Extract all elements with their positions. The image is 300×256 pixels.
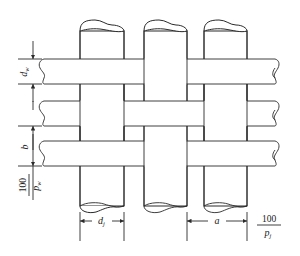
svg-text:pw: pw [30,181,42,192]
bottom-dimensions [80,212,247,241]
svg-text:pj: pj [264,227,272,239]
label-weft-spacing: b [19,145,30,150]
label-weft-pitch: 100 pw [18,174,42,196]
label-warp-diameter: dj [98,215,105,227]
label-weft-diameter: dw [18,67,30,77]
svg-text:b: b [19,145,30,150]
label-warp-pitch: 100 pj [257,214,281,239]
left-dimensions [18,41,42,200]
svg-text:dw: dw [18,67,30,77]
woven-mesh-diagram: dw b 100 pw dj a 100 pj [0,0,300,256]
svg-text:100: 100 [18,178,28,193]
svg-text:100: 100 [262,214,277,224]
label-warp-spacing: a [215,215,220,226]
